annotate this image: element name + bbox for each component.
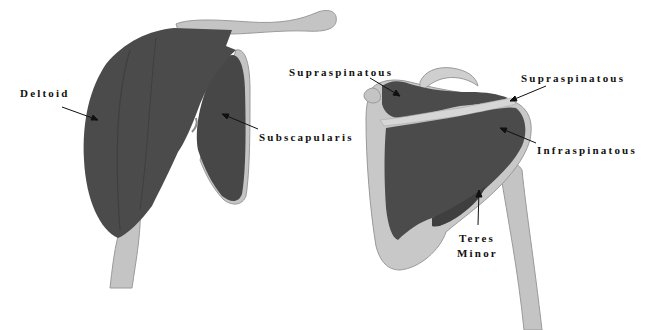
shoulder-muscle-diagram: Deltoid Subscapularis Supraspinatous Sup… [0,0,647,330]
label-supraspinatous-left: Supraspinatous [289,65,393,79]
label-supraspinatous-right: Supraspinatous [521,71,625,85]
humerus-bone-right [500,163,542,330]
label-teres: Teres [459,231,495,245]
label-infraspinatous: Infraspinatous [537,143,637,157]
label-minor: Minor [457,246,498,260]
coracoid-process [364,88,381,103]
diagram-graphics [0,0,647,330]
label-deltoid: Deltoid [20,86,70,100]
label-subscapularis: Subscapularis [259,130,354,144]
